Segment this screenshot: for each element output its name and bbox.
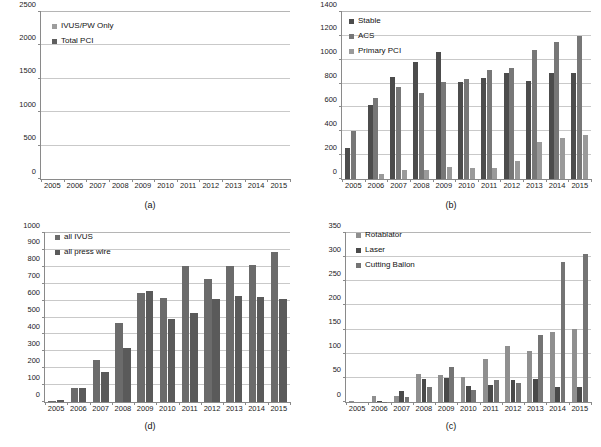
x-axis-tick-label: 2009: [433, 182, 456, 190]
legend-label: all press wire: [64, 248, 111, 256]
x-axis-tick-mark: [480, 402, 481, 405]
x-axis-tick-label: 2011: [179, 405, 201, 413]
legend-swatch-icon: [349, 19, 354, 24]
x-axis-tick-label: 2008: [109, 182, 132, 190]
x-axis-tick-label: 2012: [502, 405, 524, 413]
x-axis-tick-mark: [591, 179, 592, 182]
legend-label: ACS: [358, 32, 374, 40]
bar-group: [160, 12, 171, 179]
x-axis-tick-mark: [267, 179, 268, 182]
bar: [537, 142, 542, 179]
bar: [504, 73, 509, 179]
x-axis-tick-mark: [41, 179, 42, 182]
x-axis-tick-label: 2007: [391, 405, 413, 413]
bar-group: [205, 12, 216, 179]
y-axis-tick-label: 1000: [23, 222, 45, 230]
legend-swatch-icon: [52, 24, 57, 29]
bar: [577, 36, 582, 179]
bar: [257, 297, 265, 402]
y-axis-tick-label: 400: [27, 323, 45, 331]
bar: [571, 73, 576, 179]
x-axis-tick-label: 2007: [387, 182, 410, 190]
x-axis-tick-mark: [457, 402, 458, 405]
x-axis-tick-label: 2005: [41, 182, 64, 190]
panel-d-legend: all IVUSall press wire: [55, 233, 111, 263]
legend-item: Total PCI: [52, 37, 113, 45]
bar: [538, 335, 543, 402]
x-axis-tick-label: 2013: [223, 405, 245, 413]
bar: [390, 77, 395, 179]
x-axis-tick-mark: [90, 402, 91, 405]
x-axis-tick-mark: [433, 179, 434, 182]
x-axis-tick-label: 2015: [568, 182, 591, 190]
bar-group: [572, 233, 588, 402]
bar: [190, 313, 198, 402]
bar-group: [483, 233, 499, 402]
bar-group: [413, 12, 429, 179]
bar: [466, 386, 471, 402]
legend-item: Stable: [349, 17, 401, 25]
x-axis-tick-label: 2015: [569, 405, 591, 413]
x-axis-tick-mark: [223, 402, 224, 405]
bar: [168, 319, 176, 402]
bar: [123, 348, 131, 402]
legend-label: Cutting Ballon: [365, 261, 415, 269]
x-axis-tick-label: 2010: [154, 182, 177, 190]
y-axis-tick-label: 300: [27, 340, 45, 348]
bar: [464, 79, 469, 179]
x-axis-tick-mark: [365, 179, 366, 182]
x-axis-tick-mark: [568, 179, 569, 182]
y-axis-tick-label: 0: [32, 168, 41, 176]
bar: [368, 105, 373, 179]
bar-group: [182, 233, 198, 402]
y-axis-tick-label: 2500: [19, 1, 41, 9]
x-axis-tick-label: 2012: [199, 182, 222, 190]
x-axis-tick-label: 2014: [245, 405, 267, 413]
legend-swatch-icon: [52, 39, 57, 44]
y-axis-tick-label: 0: [36, 391, 45, 399]
legend-label: Total PCI: [61, 37, 93, 45]
bar: [235, 296, 243, 402]
bar-group: [526, 12, 542, 179]
x-axis-tick-mark: [523, 179, 524, 182]
legend-item: Cutting Ballon: [356, 261, 415, 269]
x-axis-tick-label: 2005: [45, 405, 67, 413]
x-axis-tick-label: 2008: [413, 405, 435, 413]
y-axis-tick-label: 2000: [19, 34, 41, 42]
panel-b-caption: (b): [301, 200, 601, 210]
x-axis-tick-label: 2015: [268, 405, 290, 413]
bar: [351, 131, 356, 179]
bar-group: [461, 233, 477, 402]
bar: [509, 68, 514, 179]
y-axis-tick-label: 1400: [320, 1, 342, 9]
x-axis-tick-mark: [245, 179, 246, 182]
bar-group: [137, 12, 148, 179]
x-axis-tick-label: 2008: [112, 405, 134, 413]
bar: [399, 391, 404, 402]
bar: [554, 42, 559, 179]
x-axis-tick-label: 2006: [368, 405, 390, 413]
bar: [137, 293, 145, 402]
x-axis-tick-label: 2010: [457, 405, 479, 413]
bar: [511, 380, 516, 402]
x-axis-tick-label: 2011: [480, 405, 502, 413]
bar: [424, 170, 429, 179]
bar: [93, 360, 101, 402]
bar-group: [458, 12, 474, 179]
bar-group: [549, 12, 565, 179]
x-axis-tick-label: 2009: [134, 405, 156, 413]
bar: [413, 62, 418, 179]
x-axis-tick-label: 2015: [267, 182, 290, 190]
bar: [444, 378, 449, 402]
x-axis-tick-mark: [591, 402, 592, 405]
legend-label: Stable: [358, 17, 381, 25]
y-axis-tick-label: 250: [328, 270, 346, 278]
legend-item: all press wire: [55, 248, 111, 256]
bar: [583, 254, 588, 402]
x-axis-tick-mark: [179, 402, 180, 405]
panel-d: 01002003004005006007008009001000 2005200…: [0, 223, 300, 447]
panel-b: 0200400600800100012001400 20052006200720…: [301, 0, 601, 223]
bar: [577, 387, 582, 402]
legend-swatch-icon: [356, 233, 361, 238]
x-axis-tick-mark: [290, 179, 291, 182]
